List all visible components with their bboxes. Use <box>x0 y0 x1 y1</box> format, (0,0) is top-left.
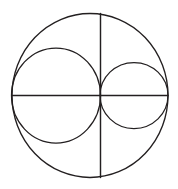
geometry-diagram <box>0 0 178 189</box>
figure-canvas <box>0 0 178 189</box>
background <box>0 0 178 189</box>
